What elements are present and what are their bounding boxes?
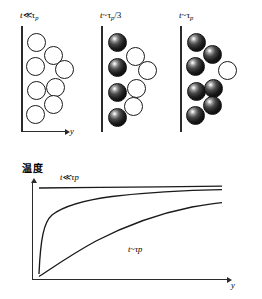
particle-open [138, 61, 157, 80]
particle-open [218, 61, 237, 80]
panel-2: t~τp/3 [88, 0, 176, 150]
particle-filled [186, 57, 205, 76]
particle-open [26, 105, 45, 124]
panel-1-y-axis [21, 131, 66, 132]
panel-3-wall [180, 26, 182, 132]
curve-label-t-much-less-tau: t≪τp [60, 172, 79, 182]
panel-1-axis-label: y [70, 126, 74, 136]
panel-2-label-suffix: /3 [114, 10, 121, 20]
particle-filled [108, 33, 127, 52]
particle-open [127, 79, 146, 98]
panel-1-label-relation: ≪ [23, 10, 32, 20]
panel-2-wall [101, 26, 103, 132]
particle-open [55, 60, 74, 79]
particle-filled [203, 45, 222, 64]
panel-3: t~τp [170, 0, 262, 150]
temperature-profile-chart: 温度 y t≪τp t~τp [0, 150, 262, 299]
curve-label-text: t~τp [128, 244, 142, 254]
particle-open [46, 78, 65, 97]
panel-1-wall [21, 26, 23, 132]
chart-y-axis [32, 182, 33, 280]
curve-label-text: t≪τp [60, 172, 79, 182]
chart-x-axis [32, 279, 228, 280]
particle-filled [108, 83, 127, 102]
curve-intermediate [39, 190, 222, 274]
chart-y-axis-label: 温度 [22, 160, 43, 175]
particle-filled [187, 82, 206, 101]
panel-1-label-subscript: p [35, 14, 38, 21]
particle-filled [108, 58, 127, 77]
chart-x-axis-label: y [231, 280, 235, 290]
curve-t-much-less-tau [39, 186, 222, 188]
panel-1: t≪τp y [0, 0, 90, 150]
panel-3-label: t~τp [179, 10, 193, 21]
figure-root: t≪τp y t~τp/3 [0, 0, 262, 299]
panel-2-label: t~τp/3 [100, 10, 121, 21]
particle-open [27, 33, 46, 52]
curve-label-t-approx-tau: t~τp [128, 244, 142, 254]
particle-open [44, 95, 63, 114]
particle-open [124, 97, 143, 116]
panel-1-label: t≪τp [20, 10, 38, 21]
particle-open [27, 81, 46, 100]
particle-filled [186, 106, 205, 125]
particle-filled [203, 96, 222, 115]
curve-t-approx-tau [39, 203, 222, 277]
particle-open [26, 57, 45, 76]
panel-3-label-subscript: p [190, 14, 193, 21]
particle-panels-row: t≪τp y t~τp/3 [0, 0, 262, 150]
